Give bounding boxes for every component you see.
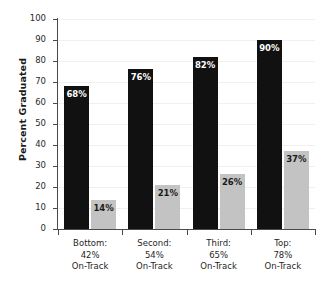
plot-area: 68%76%82%90%14%21%26%37% [58,19,315,229]
bar-value-label: 90% [257,44,282,53]
x-axis-category-line: 54% [122,250,186,262]
x-axis-tick-mark [251,230,252,235]
x-axis-category-label: Bottom:42%On-Track [58,238,122,273]
x-axis-category-label: Third:65%On-Track [187,238,251,273]
x-axis-category-line: 42% [58,250,122,262]
bar-dark-2[interactable]: 82% [193,57,218,229]
y-axis-tick-label: 60 [6,98,46,107]
x-axis-category-line: 78% [251,250,315,262]
x-axis-category-label: Second:54%On-Track [122,238,186,273]
x-axis-category-line: Second: [122,238,186,250]
x-axis-category-line: Bottom: [58,238,122,250]
bar-dark-3[interactable]: 90% [257,40,282,229]
bar-value-label: 21% [155,189,180,198]
x-axis-category-line: On-Track [187,261,251,273]
x-axis-category-line: On-Track [251,261,315,273]
bar-light-0[interactable]: 14% [91,200,116,229]
y-axis-tick-label: 80 [6,56,46,65]
bar-light-3[interactable]: 37% [284,151,309,229]
y-axis-tick-label: 30 [6,161,46,170]
y-axis-tick-label: 50 [6,119,46,128]
y-axis-tick-label: 90 [6,35,46,44]
x-axis-tick-mark [315,230,316,235]
bar-dark-1[interactable]: 76% [128,69,153,229]
x-axis-category-line: On-Track [58,261,122,273]
bar-value-label: 76% [128,73,153,82]
y-axis-tick-label: 10 [6,203,46,212]
y-axis-tick-label: 20 [6,182,46,191]
x-axis-category-line: Top: [251,238,315,250]
bar-light-2[interactable]: 26% [220,174,245,229]
y-axis-tick-label: 0 [6,224,46,233]
x-axis-category-line: 65% [187,250,251,262]
bar-value-label: 37% [284,155,309,164]
x-axis-tick-mark [58,230,59,235]
bar-value-label: 68% [64,90,89,99]
y-axis-tick-label: 100 [6,14,46,23]
x-axis-tick-mark [187,230,188,235]
bar-value-label: 82% [193,61,218,70]
bar-value-label: 14% [91,204,116,213]
bar-value-label: 26% [220,178,245,187]
x-axis-tick-mark [122,230,123,235]
x-axis-category-line: On-Track [122,261,186,273]
x-axis-category-line: Third: [187,238,251,250]
bar-chart-figure: Percent Graduated 0102030405060708090100… [0,0,328,281]
y-axis-tick-label: 40 [6,140,46,149]
bar-dark-0[interactable]: 68% [64,86,89,229]
bar-light-1[interactable]: 21% [155,185,180,229]
gridline [58,19,315,20]
y-axis-tick-label: 70 [6,77,46,86]
x-axis-category-label: Top:78%On-Track [251,238,315,273]
